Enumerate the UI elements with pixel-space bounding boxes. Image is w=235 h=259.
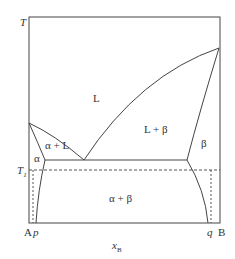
y-axis-label: T	[20, 17, 26, 28]
composition-q-label: q	[207, 227, 213, 238]
component-a-label: A	[24, 227, 32, 238]
phase-diagram-canvas	[0, 0, 235, 259]
composition-p-label: p	[33, 227, 39, 238]
t1-marker: T1	[17, 165, 27, 181]
region-alpha-liquid: α + L	[45, 140, 69, 151]
region-liquid-beta: L + β	[144, 124, 168, 135]
region-alpha: α	[34, 153, 40, 164]
region-liquid: L	[93, 93, 100, 104]
solvus-left	[36, 160, 45, 223]
t1-sub: 1	[23, 171, 27, 179]
region-alpha-beta: α + β	[109, 193, 132, 204]
x-axis-sub: B	[117, 246, 122, 254]
region-beta: β	[201, 138, 207, 149]
x-axis-label: xB	[112, 240, 122, 256]
component-b-label: B	[218, 227, 225, 238]
solvus-right	[187, 160, 208, 223]
liquidus-right	[84, 48, 219, 160]
